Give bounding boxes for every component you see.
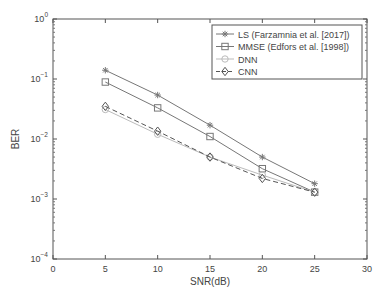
- x-tick-label: 5: [103, 264, 108, 274]
- legend: LS (Farzamnia et al. [2017])MMSE (Edfors…: [212, 25, 362, 79]
- x-axis-label: SNR(dB): [190, 276, 230, 287]
- y-tick-label: 10−3: [31, 191, 49, 204]
- x-tick-label: 0: [50, 264, 55, 274]
- ber-vs-snr-chart: 05101520253010010−110−210−310−4SNR(dB)BE…: [0, 0, 384, 303]
- legend-entry: CNN: [238, 67, 258, 77]
- y-tick-label: 100: [34, 11, 48, 24]
- series-ls: [102, 67, 318, 187]
- chart-figure: 05101520253010010−110−210−310−4SNR(dB)BE…: [0, 0, 384, 303]
- legend-entry: DNN: [238, 55, 258, 65]
- y-axis-label: BER: [10, 129, 21, 150]
- y-tick-label: 10−4: [31, 251, 49, 264]
- x-tick-label: 30: [362, 264, 372, 274]
- x-tick-label: 25: [310, 264, 320, 274]
- legend-entry: LS (Farzamnia et al. [2017]): [238, 30, 350, 40]
- series-mmse: [102, 79, 318, 196]
- y-tick-label: 10−1: [31, 71, 49, 84]
- x-tick-label: 20: [257, 264, 267, 274]
- x-tick-label: 15: [205, 264, 215, 274]
- legend-entry: MMSE (Edfors et al. [1998]): [238, 42, 349, 52]
- y-tick-label: 10−2: [31, 131, 49, 144]
- x-tick-label: 10: [153, 264, 163, 274]
